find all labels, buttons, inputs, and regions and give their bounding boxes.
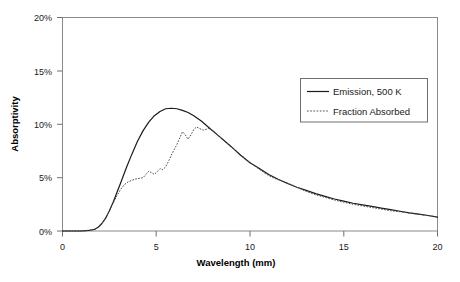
x-tick-label-20: 20 bbox=[432, 242, 442, 252]
y-tick-label-20: 20% bbox=[34, 13, 52, 23]
x-tick-label-10: 10 bbox=[245, 242, 255, 252]
y-tick-label-0: 0% bbox=[39, 227, 52, 237]
chart-background bbox=[0, 0, 460, 282]
x-tick-label-15: 15 bbox=[339, 242, 349, 252]
y-tick-label-5: 5% bbox=[39, 173, 52, 183]
y-tick-label-15: 15% bbox=[34, 67, 52, 77]
legend: Emission, 500 K Fraction Absorbed bbox=[301, 79, 428, 123]
absorptivity-line-chart: 20% 15% 10% 5% 0% 0 5 10 15 20 Wavelengt… bbox=[0, 0, 460, 282]
x-tick-label-0: 0 bbox=[60, 242, 65, 252]
y-tick-label-10: 10% bbox=[34, 120, 52, 130]
chart-figure: 20% 15% 10% 5% 0% 0 5 10 15 20 Wavelengt… bbox=[0, 0, 460, 282]
x-axis-title: Wavelength (mm) bbox=[197, 257, 276, 268]
x-tick-label-5: 5 bbox=[154, 242, 159, 252]
legend-label-fraction-absorbed: Fraction Absorbed bbox=[333, 106, 410, 117]
legend-label-emission: Emission, 500 K bbox=[333, 86, 402, 97]
y-axis-title: Absorptivity bbox=[9, 96, 20, 152]
